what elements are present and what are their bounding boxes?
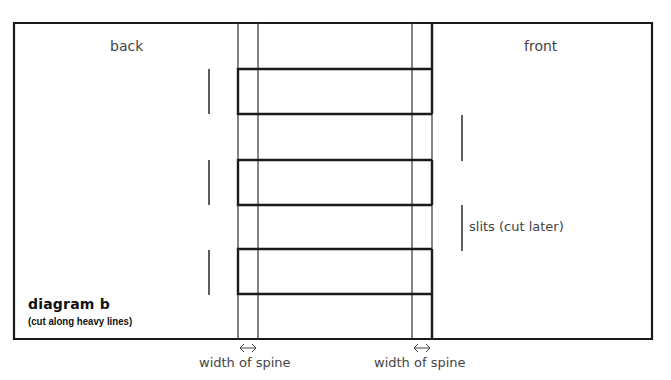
outer-cut-border xyxy=(14,23,652,339)
diagram-canvas: back front slits (cut later) diagram b (… xyxy=(0,0,671,380)
strip-3 xyxy=(238,249,432,294)
diagram-title: diagram b xyxy=(28,296,110,312)
strip-cut-lines xyxy=(238,69,432,294)
strip-2 xyxy=(238,160,432,205)
spine-width-arrow-right-icon xyxy=(414,344,430,352)
diagram-subtitle: (cut along heavy lines) xyxy=(28,315,132,327)
strip-1 xyxy=(238,69,432,114)
spine-width-label-right: width of spine xyxy=(374,355,466,370)
back-panel-label: back xyxy=(110,38,143,54)
spine-width-arrow-left-icon xyxy=(240,344,256,352)
front-panel-label: front xyxy=(524,38,557,54)
spine-width-label-left: width of spine xyxy=(199,355,291,370)
slits-annotation: slits (cut later) xyxy=(469,219,564,234)
spine-fold-lines xyxy=(238,23,412,339)
